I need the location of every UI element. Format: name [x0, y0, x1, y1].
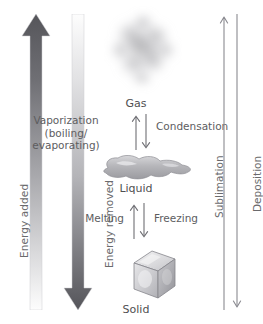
deposition-arrow — [231, 14, 243, 310]
transition-label-sublimation: Sublimation — [213, 155, 225, 218]
vaporization-line-3: evaporating) — [4, 139, 128, 152]
energy-added-arrow — [21, 14, 34, 310]
energy-added-column: Energy added — [4, 0, 48, 324]
energy-added-label: Energy added — [18, 184, 30, 258]
transition-label-deposition: Deposition — [251, 156, 263, 212]
vaporization-line-2: (boiling/ — [4, 127, 128, 140]
transition-label-melting: Melting — [62, 212, 124, 225]
phase-change-diagram: Energy added Energy removed — [0, 0, 263, 324]
right-column: Sublimation Deposition — [206, 0, 263, 324]
gas-liquid-arrow-pair — [128, 114, 154, 150]
center-column: Gas Vaporization (boiling/ evaporating) … — [66, 0, 206, 324]
transition-label-vaporization: Vaporization (boiling/ evaporating) — [4, 114, 128, 152]
liquid-puddle-icon — [94, 152, 194, 184]
vaporization-line-1: Vaporization — [4, 114, 128, 127]
transition-label-freezing: Freezing — [154, 212, 198, 225]
ice-cube-icon — [128, 248, 180, 302]
liquid-solid-arrow-pair — [126, 203, 152, 239]
gas-cloud-icon — [104, 6, 182, 94]
state-label-solid: Solid — [66, 303, 206, 316]
state-label-gas: Gas — [66, 97, 206, 110]
state-label-liquid: Liquid — [66, 182, 206, 195]
